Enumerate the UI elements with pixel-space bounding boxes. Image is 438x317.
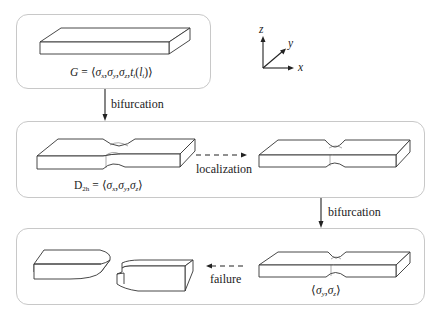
bifurcation-label-2: bifurcation xyxy=(328,206,381,218)
bifurcation-label-1: bifurcation xyxy=(111,98,164,110)
formula-eq: = xyxy=(78,66,90,78)
initial-state-formula: G = ⟨σx,σy,σz,ti(li)⟩ xyxy=(70,67,153,80)
necking-state-formula: D2h = ⟨σx,σy,σz⟩ xyxy=(74,180,143,193)
bifurcation-arrow-2 xyxy=(319,198,324,228)
formula-bracket: ⟩ xyxy=(148,66,153,78)
formula-bracket: ⟩ xyxy=(336,284,341,296)
necked-bar-left-shape xyxy=(37,139,195,169)
axis-label-x: x xyxy=(298,62,303,74)
failure-label: failure xyxy=(210,273,241,285)
localized-bar-bottom-shape xyxy=(259,252,410,277)
axis-label-z: z xyxy=(259,24,263,36)
formula-eq: = xyxy=(89,179,101,191)
diagram-canvas: G = ⟨σx,σy,σz,ti(li)⟩ z y x bifurcation … xyxy=(0,0,438,317)
formula-bracket: ⟩ xyxy=(138,179,143,191)
axis-label-y: y xyxy=(288,38,293,50)
failure-state-formula: ⟨σy,σz⟩ xyxy=(311,285,341,298)
failure-arrow xyxy=(206,264,246,269)
bifurcation-arrow-1 xyxy=(103,89,108,121)
fractured-piece-left-shape xyxy=(34,250,110,279)
localization-label: localization xyxy=(196,163,252,175)
intact-bar-shape xyxy=(40,28,190,54)
localization-arrow xyxy=(196,153,247,158)
localized-bar-shape xyxy=(259,140,410,167)
fractured-piece-right-shape xyxy=(117,260,193,291)
diagram-graphics xyxy=(0,0,438,317)
